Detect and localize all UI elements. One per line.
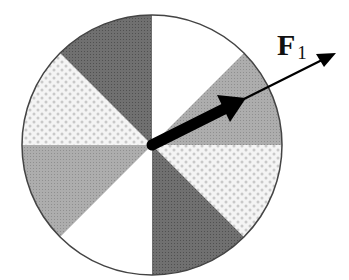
force-label-subscript: 1 <box>297 42 307 63</box>
force-label-f1: F1 <box>277 30 307 62</box>
force-label-main: F <box>277 28 295 61</box>
thin-arrowhead-icon <box>316 53 336 67</box>
